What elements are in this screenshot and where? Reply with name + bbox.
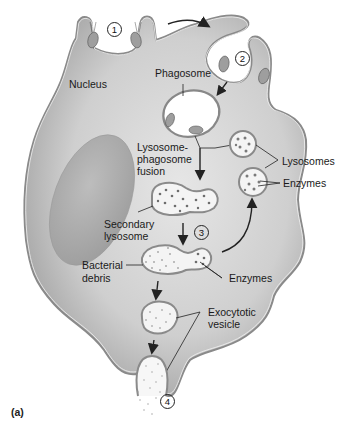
label-phagosome: Phagosome: [155, 67, 211, 79]
bacterial-debris-vesicle: [142, 245, 211, 273]
step-2-marker: 2: [235, 51, 250, 66]
panel-label: (a): [11, 406, 24, 418]
label-debris-2: debris: [82, 272, 111, 284]
label-exocytotic-1: Exocytotic: [208, 306, 256, 318]
label-debris-1: Bacterial: [82, 259, 123, 271]
step-4-marker: 4: [160, 394, 175, 409]
step-3-marker: 3: [194, 225, 209, 240]
lysosome-2: [239, 168, 267, 196]
step-1-marker: 1: [107, 22, 122, 37]
label-enzymes-bottom: Enzymes: [229, 272, 272, 284]
label-secondary-2: lysosome: [104, 230, 148, 242]
label-lysosomes: Lysosomes: [282, 155, 335, 167]
phagocytosis-diagram: [0, 0, 361, 428]
label-exocytotic-2: vesicle: [208, 318, 240, 330]
label-nucleus: Nucleus: [69, 78, 107, 90]
exocytosis-pore: [137, 356, 168, 396]
label-fusion-2: phagosome: [137, 153, 192, 165]
label-enzymes-top: Enzymes: [283, 177, 326, 189]
lysosome-1: [230, 131, 256, 157]
label-fusion-1: Lysosome-: [137, 141, 188, 153]
label-secondary-1: Secondary: [104, 218, 154, 230]
exocytotic-vesicle: [142, 302, 178, 334]
label-fusion-3: fusion: [137, 165, 165, 177]
